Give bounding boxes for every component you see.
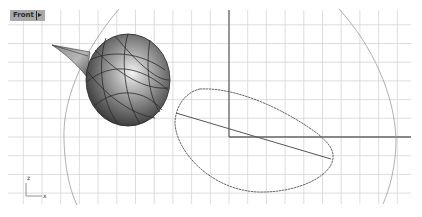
construction-grid <box>8 10 411 204</box>
diagonal-line[interactable] <box>176 113 331 159</box>
x-axis-label: x <box>43 193 47 199</box>
closed-blob-curve[interactable] <box>175 89 333 192</box>
viewport-title-tab[interactable]: Front <box>10 10 45 21</box>
z-axis-label: z <box>27 175 30 181</box>
axis-indicator <box>26 183 42 196</box>
viewport-menu-arrow-icon[interactable] <box>36 11 43 20</box>
viewport-canvas[interactable] <box>0 0 422 217</box>
sphere-surface[interactable] <box>86 34 170 126</box>
viewport-name: Front <box>13 10 34 21</box>
front-viewport[interactable]: Front z x <box>0 0 422 217</box>
